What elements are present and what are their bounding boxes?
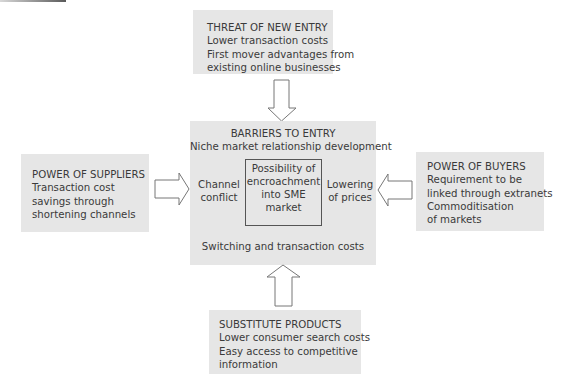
up-arrow-icon [266,264,302,308]
box-line: information [219,358,361,371]
box-line: linked through extranets [427,187,544,200]
box-line: shortening channels [32,208,149,221]
label-line: Channel [194,178,244,191]
sme-encroachment-box: Possibility of encroachment into SME mar… [245,159,322,226]
left-arrow-icon [376,172,414,208]
label-line: of prices [324,191,376,204]
box-line: Easy access to competitive [219,345,361,358]
down-arrow-icon [266,79,298,123]
box-line: Transaction cost [32,181,149,194]
inner-line: into SME [246,188,321,201]
center-footer: Switching and transaction costs [190,240,376,253]
box-line: existing online businesses [207,61,333,74]
label-line: Lowering [324,178,376,191]
inner-line: encroachment [246,175,321,188]
threat-of-new-entry-box: THREAT OF NEW ENTRY Lower transaction co… [193,10,333,74]
power-of-suppliers-box: POWER OF SUPPLIERS Transaction cost savi… [21,154,149,232]
box-line: Lower transaction costs [207,34,333,47]
label-line: conflict [194,191,244,204]
box-line: of markets [427,213,544,226]
center-heading: BARRIERS TO ENTRY [190,127,376,140]
barriers-to-entry-box: BARRIERS TO ENTRY Niche market relations… [190,121,376,265]
box-line: First mover advantages from [207,48,333,61]
right-arrow-icon [154,172,192,206]
top-edge-bar [0,0,66,2]
channel-conflict-label: Channel conflict [194,178,244,204]
power-of-buyers-box: POWER OF BUYERS Requirement to be linked… [416,152,544,231]
substitute-products-box: SUBSTITUTE PRODUCTS Lower consumer searc… [209,310,361,374]
center-subheading: Niche market relationship development [190,140,376,153]
box-line: Lower consumer search costs [219,331,361,344]
box-line: Requirement to be [427,173,544,186]
lowering-of-prices-label: Lowering of prices [324,178,376,204]
box-line: savings through [32,195,149,208]
box-heading: THREAT OF NEW ENTRY [207,21,333,34]
box-heading: SUBSTITUTE PRODUCTS [219,318,361,331]
box-heading: POWER OF BUYERS [427,160,544,173]
box-heading: POWER OF SUPPLIERS [32,168,149,181]
inner-line: market [246,201,321,214]
box-line: Commoditisation [427,200,544,213]
inner-line: Possibility of [246,162,321,175]
